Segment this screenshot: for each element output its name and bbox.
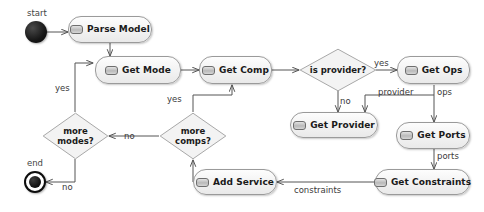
edge-label-ports: ports (437, 152, 459, 161)
decision-node-label: is provider? (310, 65, 366, 75)
edge-label-more-modes-yes: yes (55, 84, 70, 93)
activity-node-label: Get Mode (122, 66, 171, 75)
activity-node-label: Parse Model (87, 25, 150, 34)
activity-icon (400, 131, 413, 140)
decision-node-more-modes[interactable]: more modes? (42, 112, 109, 160)
edge-label-more-modes-no: no (62, 183, 73, 192)
activity-icon (202, 66, 215, 75)
activity-node-get-constraints[interactable]: Get Constraints (375, 169, 470, 195)
decision-node-is-provider[interactable]: is provider? (299, 48, 377, 92)
activity-node-label: Get Comp (219, 66, 269, 75)
activity-node-label: Get Constraints (391, 178, 471, 187)
final-node-end[interactable] (24, 171, 46, 193)
activity-node-parse-model[interactable]: Parse Model (68, 16, 152, 43)
activity-icon (70, 25, 83, 34)
decision-node-label: more comps? (175, 126, 211, 146)
edge-label-is-provider-no: no (340, 97, 351, 106)
activity-node-get-ops[interactable]: Get Ops (397, 56, 470, 84)
activity-node-get-mode[interactable]: Get Mode (95, 56, 181, 84)
edge-more-comps-yes-to-get-comp (193, 85, 232, 112)
activity-node-label: Add Service (213, 178, 274, 187)
activity-node-label: Get Provider (310, 121, 375, 130)
decision-node-label: more modes? (57, 126, 94, 146)
decision-node-more-comps[interactable]: more comps? (159, 112, 227, 160)
edge-label-constraints: constraints (294, 186, 341, 195)
edge-label-is-provider-yes: yes (374, 59, 389, 68)
activity-node-get-ports[interactable]: Get Ports (396, 122, 470, 149)
initial-node-label: start (27, 9, 47, 18)
activity-icon (105, 66, 118, 75)
edge-label-ops: ops (437, 88, 452, 97)
decision-label-line-1: more (175, 126, 211, 136)
activity-icon (196, 178, 209, 187)
activity-node-label: Get Ops (422, 66, 463, 75)
activity-node-add-service[interactable]: Add Service (193, 169, 277, 195)
activity-icon (374, 178, 387, 187)
activity-icon (405, 66, 418, 75)
decision-label-line-1: more (57, 126, 94, 136)
edge-label-more-comps-yes: yes (167, 95, 182, 104)
decision-label-line-2: comps? (175, 136, 211, 146)
edge-more-modes-no-to-end (46, 159, 75, 182)
activity-node-get-comp[interactable]: Get Comp (199, 56, 272, 84)
edge-label-provider: provider (378, 88, 413, 97)
activity-node-label: Get Ports (417, 131, 465, 140)
edge-provider-dataflow (365, 95, 434, 112)
activity-icon (293, 121, 306, 130)
edge-more-modes-yes-to-get-mode (75, 63, 93, 112)
activity-diagram-canvas: Get Ops --> Get Provider --> Get Ports (… (0, 0, 484, 212)
initial-node-start[interactable] (25, 21, 47, 43)
final-node-label: end (27, 159, 43, 168)
activity-node-get-provider[interactable]: Get Provider (290, 112, 378, 138)
edge-label-more-comps-no: no (124, 132, 135, 141)
decision-label-line-2: modes? (57, 136, 94, 146)
